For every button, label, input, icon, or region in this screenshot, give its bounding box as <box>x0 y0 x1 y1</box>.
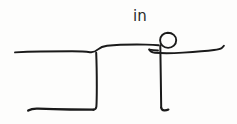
figure-shoulder-hook-line <box>149 50 158 51</box>
sketch-canvas: in <box>0 0 237 124</box>
figure-foot-line <box>161 108 168 111</box>
figure-head-circle <box>160 33 176 48</box>
figure-body-line <box>160 45 161 107</box>
upper-ledge-line <box>15 45 159 53</box>
lower-ground-line <box>28 109 93 111</box>
handwritten-label-in: in <box>133 9 147 24</box>
sketch-drawing <box>0 0 237 124</box>
ledge-vertical-drop-line <box>93 53 97 110</box>
